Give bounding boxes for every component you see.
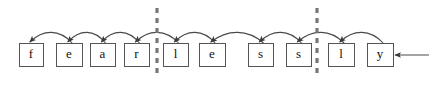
back-pointer-arc [340,32,383,43]
character-cell-label: s [296,46,301,61]
back-pointer-arc [259,32,301,43]
back-pointer-arc [101,32,139,43]
back-pointer-arc [68,32,106,43]
back-pointer-arcs [30,32,383,43]
character-cell-label: e [209,46,215,61]
character-cell-label: l [339,46,343,61]
character-cell[interactable]: l [164,44,189,67]
character-cell[interactable]: y [368,44,394,67]
character-cell-label: s [258,46,263,61]
character-cell[interactable]: s [249,44,274,67]
back-pointer-arc [297,32,344,43]
character-cell[interactable]: l [329,44,355,67]
back-pointer-arc [30,32,72,43]
back-pointer-arc [211,32,264,43]
character-cell-label: a [100,46,106,61]
character-cell-label: y [377,46,384,61]
character-cell-label: l [174,46,178,61]
diagram-canvas: fearlessly [0,0,435,88]
character-cell[interactable]: a [91,44,116,67]
character-cell[interactable]: r [125,44,150,67]
character-cell[interactable]: e [200,44,226,67]
back-pointer-arc [174,32,215,43]
character-cell-label: e [66,46,72,61]
character-cell[interactable]: f [20,44,44,67]
character-cells: fearlessly [20,44,394,67]
character-cell-label: r [134,46,139,61]
linked-list-word-diagram: fearlessly [0,0,435,88]
character-cell[interactable]: e [57,44,83,67]
character-cell[interactable]: s [287,44,312,67]
character-cell-label: f [29,46,34,61]
